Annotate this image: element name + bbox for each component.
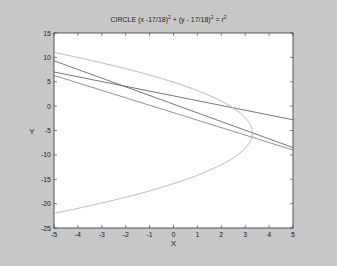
axes-box bbox=[54, 33, 293, 228]
y-tick-label: -10 bbox=[41, 151, 51, 158]
x-tick-label: -3 bbox=[99, 231, 105, 238]
x-tick-label: 3 bbox=[243, 231, 247, 238]
x-axis-label: X bbox=[171, 239, 177, 248]
x-tick-label: 2 bbox=[219, 231, 223, 238]
y-tick-label: 10 bbox=[43, 54, 51, 61]
x-tick-label: 1 bbox=[195, 231, 199, 238]
x-tick-label: -1 bbox=[146, 231, 152, 238]
y-tick-label: 0 bbox=[47, 103, 51, 110]
plot-area: -5-4-3-2-1012345151050-5-10-15-20-25XY bbox=[0, 0, 337, 266]
y-tick-label: -5 bbox=[45, 127, 51, 134]
x-tick-label: -4 bbox=[75, 231, 81, 238]
y-tick-label: -20 bbox=[41, 200, 51, 207]
x-tick-label: 5 bbox=[291, 231, 295, 238]
y-tick-label: -15 bbox=[41, 176, 51, 183]
y-tick-label: 5 bbox=[47, 78, 51, 85]
x-tick-label: 4 bbox=[267, 231, 271, 238]
x-tick-label: -5 bbox=[51, 231, 57, 238]
x-tick-label: 0 bbox=[172, 231, 176, 238]
y-tick-label: -25 bbox=[41, 225, 51, 232]
y-tick-label: 15 bbox=[43, 30, 51, 37]
y-axis-label: Y bbox=[29, 127, 35, 136]
x-tick-label: -2 bbox=[123, 231, 129, 238]
